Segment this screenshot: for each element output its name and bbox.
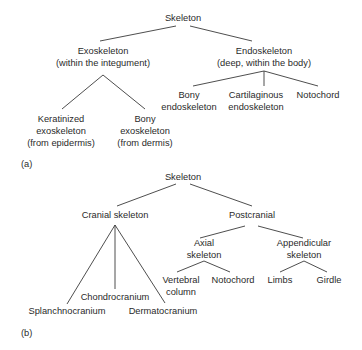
- node-appendicular-line1: Appendicular: [277, 237, 331, 249]
- node-limbs-label: Limbs: [268, 274, 293, 286]
- node-exoskeleton-line2: (within the integument): [56, 57, 150, 69]
- edge-skeleton-exoskeleton: [100, 26, 176, 41]
- edge-skeleton-postcranial: [190, 184, 252, 206]
- node-bony-endoskeleton: Bony endoskeleton: [161, 89, 216, 113]
- node-splanchnocranium: Splanchnocranium: [28, 305, 105, 317]
- node-postcranial: Postcranial: [229, 209, 275, 221]
- node-a-skeleton: Skeleton: [165, 12, 201, 24]
- node-dermatocranium-label: Dermatocranium: [129, 305, 198, 317]
- edge-skeleton-endoskeleton: [190, 26, 252, 41]
- node-endoskeleton-line1: Endoskeleton: [217, 45, 311, 57]
- node-endoskeleton: Endoskeleton (deep, within the body): [217, 45, 311, 69]
- node-postcranial-label: Postcranial: [229, 209, 275, 221]
- node-b-skeleton: Skeleton: [165, 171, 201, 183]
- node-bony-exo-line2: exoskeleton: [117, 125, 172, 137]
- node-vertebral-column: Vertebral column: [162, 274, 199, 298]
- node-exoskeleton-line1: Exoskeleton: [56, 45, 150, 57]
- edge-endo-bony: [193, 71, 264, 86]
- node-appendicular-line2: skeleton: [277, 249, 331, 261]
- node-bony-exo-line1: Bony: [117, 113, 172, 125]
- node-a-skeleton-label: Skeleton: [165, 12, 201, 24]
- edge-appendicular-girdle: [304, 261, 327, 272]
- node-cartilaginous-endoskeleton: Cartilaginous endoskeleton: [228, 89, 283, 113]
- node-exoskeleton: Exoskeleton (within the integument): [56, 45, 150, 69]
- node-cranial-skeleton: Cranial skeleton: [82, 209, 149, 221]
- node-appendicular-skeleton: Appendicular skeleton: [277, 237, 331, 261]
- node-keratinized-line1: Keratinized: [27, 113, 95, 125]
- node-a-notochord: Notochord: [297, 89, 340, 101]
- edge-exo-keratinized: [62, 75, 103, 109]
- node-vertebral-line2: column: [162, 286, 199, 298]
- node-b-skeleton-label: Skeleton: [165, 171, 201, 183]
- edge-exo-bony: [103, 75, 145, 109]
- node-bony-exo-line3: (from dermis): [117, 137, 172, 149]
- node-bony-endo-line2: endoskeleton: [161, 101, 216, 113]
- panel-a-label: (a): [21, 158, 32, 170]
- node-chondrocranium: Chondrocranium: [81, 291, 150, 303]
- node-bony-exoskeleton: Bony exoskeleton (from dermis): [117, 113, 172, 149]
- node-chondrocranium-label: Chondrocranium: [81, 291, 150, 303]
- node-axial-skeleton: Axial skeleton: [187, 237, 222, 261]
- node-girdle: Girdle: [317, 274, 342, 286]
- node-b-notochord-label: Notochord: [212, 274, 255, 286]
- node-endoskeleton-line2: (deep, within the body): [217, 57, 311, 69]
- node-axial-line2: skeleton: [187, 249, 222, 261]
- node-bony-endo-line1: Bony: [161, 89, 216, 101]
- node-cartilaginous-line1: Cartilaginous: [228, 89, 283, 101]
- node-keratinized-line2: exoskeleton: [27, 125, 95, 137]
- node-keratinized-exoskeleton: Keratinized exoskeleton (from epidermis): [27, 113, 95, 149]
- node-axial-line1: Axial: [187, 237, 222, 249]
- panel-b-label: (b): [21, 327, 32, 339]
- edge-appendicular-limbs: [280, 261, 304, 272]
- node-a-notochord-label: Notochord: [297, 89, 340, 101]
- edge-skeleton-cranial: [117, 184, 176, 206]
- node-dermatocranium: Dermatocranium: [129, 305, 198, 317]
- edge-axial-vertebral: [177, 261, 204, 272]
- node-girdle-label: Girdle: [317, 274, 342, 286]
- node-keratinized-line3: (from epidermis): [27, 137, 95, 149]
- edge-axial-notochord: [204, 261, 230, 272]
- node-cartilaginous-line2: endoskeleton: [228, 101, 283, 113]
- node-b-notochord: Notochord: [212, 274, 255, 286]
- node-limbs: Limbs: [268, 274, 293, 286]
- node-cranial-label: Cranial skeleton: [82, 209, 149, 221]
- node-vertebral-line1: Vertebral: [162, 274, 199, 286]
- edge-endo-notochord: [264, 71, 318, 86]
- node-splanchnocranium-label: Splanchnocranium: [28, 305, 105, 317]
